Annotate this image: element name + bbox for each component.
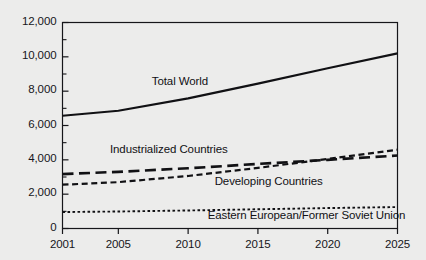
plot-frame bbox=[63, 23, 398, 229]
x-axis-label: 2005 bbox=[88, 238, 148, 250]
x-axis-label: 2010 bbox=[158, 238, 218, 250]
y-axis-label: 8,000 bbox=[28, 83, 56, 95]
x-axis-label: 2001 bbox=[33, 238, 93, 250]
y-axis-label: 2,000 bbox=[28, 186, 56, 198]
y-axis-label: 10,000 bbox=[22, 49, 57, 61]
x-axis-label: 2015 bbox=[228, 238, 288, 250]
series-annotation-0: Total World bbox=[152, 75, 208, 87]
y-axis-label: 6,000 bbox=[28, 118, 56, 130]
x-axis-label: 2025 bbox=[368, 238, 426, 250]
series-annotation-1: Industrialized Countries bbox=[110, 143, 228, 155]
series-annotation-3: Eastern European/Former Soviet Union bbox=[208, 209, 406, 221]
series-line-0 bbox=[63, 53, 398, 115]
y-axis-label: 12,000 bbox=[22, 15, 57, 27]
y-axis-label: 4,000 bbox=[28, 152, 56, 164]
y-axis-label: 0 bbox=[50, 221, 56, 233]
chart-container: 02,0004,0006,0008,00010,00012,0002001200… bbox=[0, 0, 426, 260]
x-axis-label: 2020 bbox=[298, 238, 358, 250]
series-annotation-2: Developing Countries bbox=[215, 175, 323, 187]
